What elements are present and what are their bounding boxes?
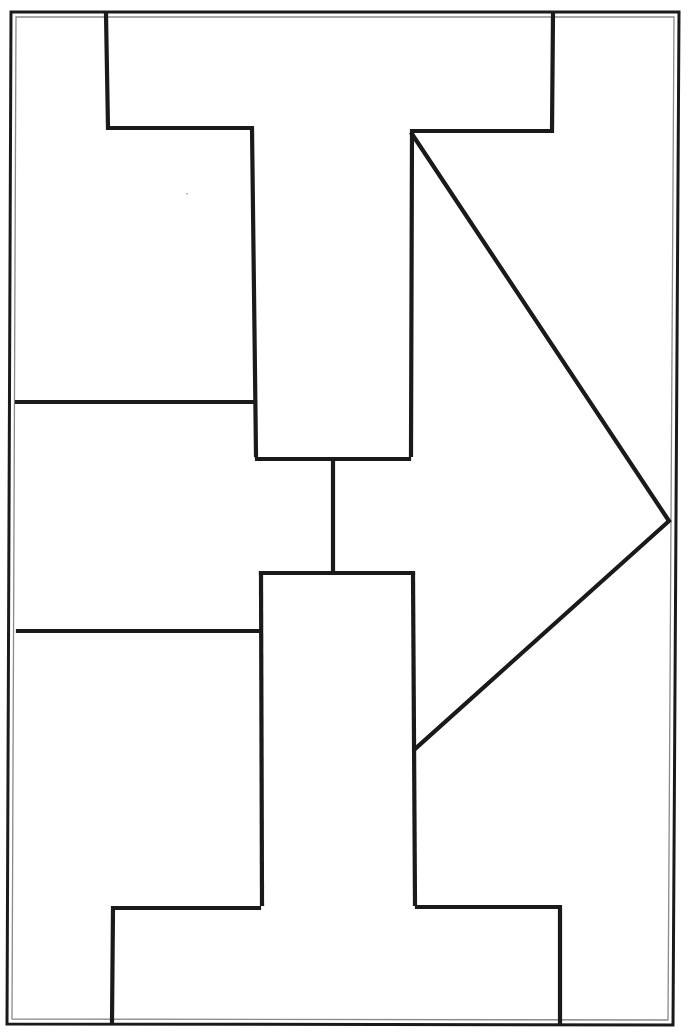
upper-t-right-outline: [411, 14, 553, 455]
upper-t-left-outline: [106, 14, 256, 455]
lower-t-left-outline: [261, 573, 262, 904]
lower-t-right-base: [417, 907, 560, 1022]
lower-t-right-outline: [413, 573, 415, 904]
outer-border: [7, 12, 679, 1025]
scan-speck: [186, 193, 188, 195]
right-arrow-shape: [412, 134, 669, 749]
lower-t-left-base: [112, 908, 259, 1022]
graphic-organizer-diagram: [0, 0, 688, 1033]
inner-border: [12, 17, 674, 1020]
